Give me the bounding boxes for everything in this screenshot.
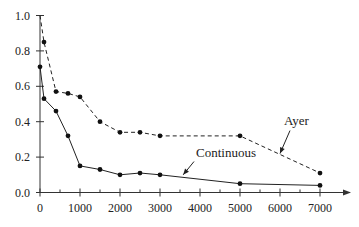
x-tick-label: 5000 [228,201,252,215]
y-tick-label: 0.8 [15,44,30,58]
x-tick-label: 3000 [148,201,172,215]
data-point-marker [38,64,43,69]
series-line-continuous [40,67,320,186]
data-point-marker [78,164,83,169]
data-point-marker [138,130,143,135]
annotations: AyerContinuous [183,113,309,175]
data-point-marker [118,172,123,177]
x-tick-label: 6000 [268,201,292,215]
y-tick-label: 0.2 [15,150,30,164]
y-tick-label: 1.0 [15,9,30,23]
x-tick-label: 2000 [108,201,132,215]
data-point-marker [66,133,71,138]
data-point-marker [66,91,71,96]
data-point-marker [54,89,59,94]
data-point-marker [238,133,243,138]
data-point-marker [98,119,103,124]
annotation-ayer: Ayer [280,113,309,153]
x-tick-label: 1000 [68,201,92,215]
series-line-ayer [40,16,320,174]
annotation-label: Continuous [196,145,256,160]
x-tick-label: 0 [37,201,43,215]
annotation-label: Ayer [284,113,309,128]
data-point-marker [318,171,323,176]
x-tick-label: 7000 [308,201,332,215]
series-continuous [38,64,323,187]
data-point-marker [318,183,323,188]
data-point-marker [138,171,143,176]
y-tick-label: 0.6 [15,79,30,93]
line-chart: 0.00.20.40.60.81.0 010002000300040005000… [0,0,359,227]
data-point-marker [78,95,83,100]
data-point-marker [118,130,123,135]
annotation-continuous: Continuous [183,145,256,175]
y-tick-label: 0.4 [15,115,30,129]
x-tick-label: 4000 [188,201,212,215]
data-point-marker [158,172,163,177]
data-point-marker [238,181,243,186]
data-point-marker [42,40,47,45]
data-point-marker [98,167,103,172]
series-group [38,16,323,188]
data-point-marker [42,96,47,101]
y-tick-label: 0.0 [15,186,30,200]
data-point-marker [54,109,59,114]
x-axis-arrow-icon [343,190,351,196]
x-axis: 01000200030004000500060007000 [37,189,351,215]
data-point-marker [158,133,163,138]
y-axis: 0.00.20.40.60.81.0 [15,9,44,200]
